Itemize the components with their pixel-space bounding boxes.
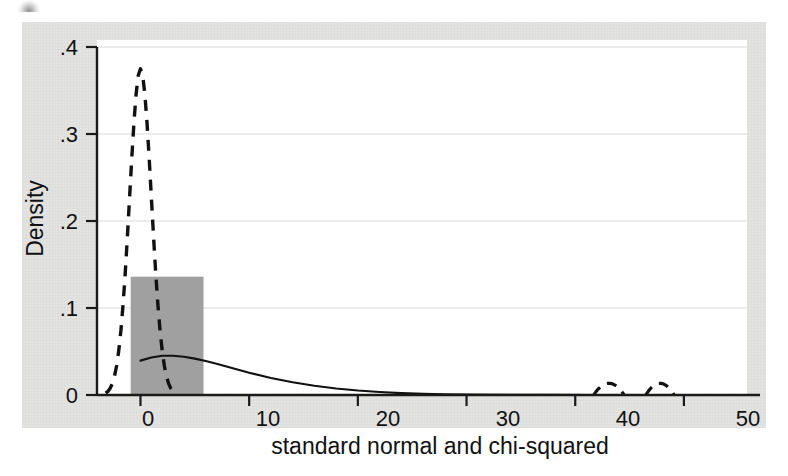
y-axis-label: Density bbox=[22, 159, 49, 279]
y-tick-label-4: .4 bbox=[44, 35, 78, 61]
x-tick-label-1: 10 bbox=[238, 406, 298, 432]
x-axis-ticks bbox=[140, 395, 683, 406]
y-tick-label-1: .1 bbox=[44, 296, 78, 322]
density-chart bbox=[0, 0, 788, 476]
x-tick-label-0: 0 bbox=[118, 406, 178, 432]
gridlines bbox=[97, 47, 747, 308]
y-tick-label-3: .3 bbox=[44, 122, 78, 148]
y-tick-label-2: .2 bbox=[44, 209, 78, 235]
y-axis-ticks bbox=[86, 47, 97, 395]
histogram-bar-rect bbox=[131, 277, 204, 395]
y-tick-label-0: 0 bbox=[44, 383, 78, 409]
tail-bump-curves bbox=[594, 383, 674, 395]
x-tick-label-3: 30 bbox=[478, 406, 538, 432]
x-axis-label: standard normal and chi-squared bbox=[240, 433, 640, 460]
x-tick-label-4: 40 bbox=[598, 406, 658, 432]
histogram-bar bbox=[131, 277, 204, 395]
tail-bump bbox=[646, 383, 674, 395]
x-tick-label-2: 20 bbox=[358, 406, 418, 432]
x-tick-label-5: 50 bbox=[718, 406, 778, 432]
scanned-page: 0 .1 .2 .3 .4 0 10 20 30 40 50 Density s… bbox=[0, 0, 788, 476]
tail-bump bbox=[594, 383, 624, 395]
